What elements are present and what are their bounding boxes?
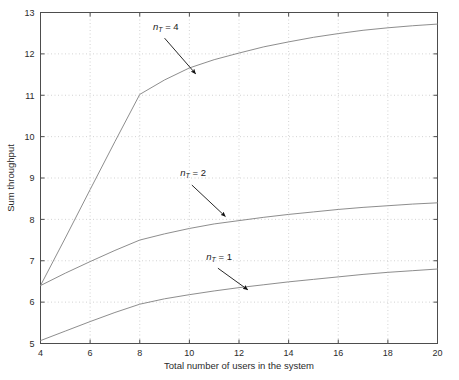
x-tick-label: 18 <box>383 348 393 358</box>
x-axis-title: Total number of users in the system <box>164 360 314 371</box>
y-tick-label: 11 <box>25 91 34 101</box>
x-tick-label: 20 <box>432 348 442 358</box>
y-tick-label: 7 <box>29 256 34 266</box>
series-annotation-label: nT = 4 <box>153 21 179 33</box>
y-tick-label: 12 <box>24 49 34 59</box>
x-tick-label: 16 <box>333 348 343 358</box>
series-annotation-label: nT = 2 <box>180 167 206 179</box>
y-axis-title: Sum throughput <box>5 144 16 212</box>
x-tick-label: 10 <box>184 348 194 358</box>
x-tick-label: 12 <box>234 348 244 358</box>
x-tick-label: 14 <box>284 348 294 358</box>
y-tick-label: 13 <box>24 8 34 18</box>
chart-canvas: 5678910111213 468101214161820 nT = 4nT =… <box>0 0 459 380</box>
x-tick-label: 4 <box>38 348 43 358</box>
y-tick-label: 5 <box>29 339 34 349</box>
y-tick-label: 8 <box>29 215 34 225</box>
y-tick-label: 6 <box>29 297 34 307</box>
figure-container: 5678910111213 468101214161820 nT = 4nT =… <box>0 0 459 380</box>
figure-background <box>0 0 459 380</box>
y-tick-label: 9 <box>29 173 34 183</box>
x-tick-label: 8 <box>137 348 142 358</box>
y-tick-label: 10 <box>24 132 34 142</box>
series-annotation-label: nT = 1 <box>206 251 232 263</box>
x-tick-label: 6 <box>88 348 93 358</box>
